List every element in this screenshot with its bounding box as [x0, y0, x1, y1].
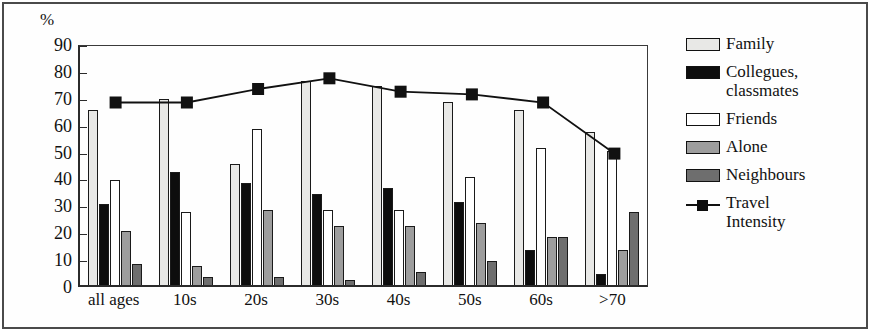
bar — [372, 86, 382, 285]
bar — [618, 250, 628, 285]
bar — [607, 151, 617, 285]
x-tick-label: 10s — [149, 290, 220, 310]
bar-group — [364, 46, 435, 285]
bar — [405, 226, 415, 285]
legend-label: Collegues,classmates — [726, 62, 799, 100]
legend-label-line2: classmates — [726, 81, 799, 100]
bar — [514, 110, 524, 285]
bar — [181, 212, 191, 285]
y-tick-label: 0 — [36, 277, 72, 298]
bar-groups — [80, 46, 647, 285]
y-tick-label: 90 — [36, 35, 72, 56]
y-tick-label: 20 — [36, 223, 72, 244]
x-tick-label: 50s — [434, 290, 505, 310]
x-tick-label: 40s — [363, 290, 434, 310]
legend-label: Neighbours — [726, 165, 805, 184]
bar — [301, 81, 311, 285]
bar — [192, 266, 202, 285]
bar-group — [576, 46, 647, 285]
bar — [394, 210, 404, 285]
x-axis-tick-labels: all ages10s20s30s40s50s60s>70 — [78, 290, 648, 310]
y-tick-label: 30 — [36, 196, 72, 217]
x-tick-label: 60s — [506, 290, 577, 310]
bar — [203, 277, 213, 285]
bar — [443, 102, 453, 285]
x-tick-label: all ages — [78, 290, 149, 310]
legend-label: TravelIntensity — [726, 193, 786, 231]
bar — [476, 223, 486, 285]
bar-group — [505, 46, 576, 285]
legend-label: Friends — [726, 109, 777, 128]
bar-group — [293, 46, 364, 285]
bar — [585, 132, 595, 285]
y-tick-label: 70 — [36, 89, 72, 110]
bar — [487, 261, 497, 285]
bar — [383, 188, 393, 285]
bar — [274, 277, 284, 285]
bar — [323, 210, 333, 285]
legend-label: Family — [726, 34, 774, 53]
bar — [252, 129, 262, 285]
bar-group — [151, 46, 222, 285]
y-tick-label: 10 — [36, 250, 72, 271]
bar-group — [222, 46, 293, 285]
legend-item[interactable]: Neighbours — [686, 165, 861, 184]
legend-item[interactable]: Alone — [686, 137, 861, 156]
bar — [596, 274, 606, 285]
bar — [536, 148, 546, 285]
y-tick-label: 40 — [36, 169, 72, 190]
bar — [416, 272, 426, 285]
legend-swatch-icon — [686, 169, 720, 182]
y-tick-label: 50 — [36, 143, 72, 164]
bar — [558, 237, 568, 285]
bar — [132, 264, 142, 286]
bar — [263, 210, 273, 285]
chart-figure: % 9080706050403020100 all ages10s20s30s4… — [2, 2, 868, 329]
legend-item[interactable]: Friends — [686, 109, 861, 128]
legend-swatch-icon — [686, 38, 720, 51]
legend-item[interactable]: Family — [686, 34, 861, 53]
y-tick-label: 80 — [36, 62, 72, 83]
bar — [629, 212, 639, 285]
x-tick-label: 20s — [221, 290, 292, 310]
legend-label-line2: Intensity — [726, 212, 786, 231]
legend-item[interactable]: Collegues,classmates — [686, 62, 861, 100]
legend-swatch-icon — [686, 141, 720, 154]
bar — [230, 164, 240, 285]
bar — [345, 280, 355, 285]
legend-label: Alone — [726, 137, 768, 156]
legend-swatch-icon — [686, 66, 720, 79]
chart-legend: FamilyCollegues,classmatesFriendsAloneNe… — [686, 34, 861, 240]
bar — [454, 202, 464, 285]
bar — [312, 194, 322, 285]
plot-area — [78, 45, 648, 287]
bar — [121, 231, 131, 285]
bar — [334, 226, 344, 285]
y-tick-label: 60 — [36, 116, 72, 137]
bar-group — [434, 46, 505, 285]
legend-swatch-icon — [686, 113, 720, 126]
bar — [170, 172, 180, 285]
bar — [99, 204, 109, 285]
bar — [547, 237, 557, 285]
x-tick-label: >70 — [577, 290, 648, 310]
bar — [159, 99, 169, 285]
y-axis-tick-labels: 9080706050403020100 — [32, 4, 72, 327]
bar — [241, 183, 251, 285]
bar — [110, 180, 120, 285]
bar-group — [80, 46, 151, 285]
bar — [525, 250, 535, 285]
bar — [465, 177, 475, 285]
x-tick-label: 30s — [292, 290, 363, 310]
legend-item[interactable]: TravelIntensity — [686, 193, 861, 231]
legend-line-marker-icon — [686, 198, 720, 212]
bar — [88, 110, 98, 285]
